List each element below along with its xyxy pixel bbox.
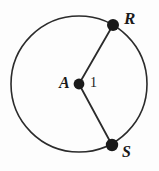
point-marker-a (74, 79, 85, 90)
center-point-label-a: A (59, 75, 70, 91)
radius-segment-as (79, 84, 112, 145)
radius-measure-label: 1 (90, 76, 97, 90)
point-label-s: S (122, 144, 131, 160)
point-label-r: R (124, 10, 135, 27)
point-marker-r (107, 19, 119, 31)
point-marker-s (106, 139, 118, 151)
geometry-figure: A 1 R S (0, 0, 159, 171)
